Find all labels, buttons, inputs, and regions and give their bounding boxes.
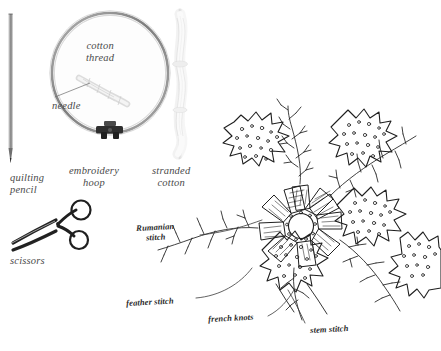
quilting-pencil-illustration: [9, 14, 13, 163]
embroidery-hoop-illustration: [50, 11, 170, 139]
feather-stitch-stems: [158, 99, 416, 320]
leaf-upper-right: [329, 109, 397, 167]
label-stranded-cotton: stranded cotton: [152, 165, 190, 188]
label-quilting-pencil: quilting pencil: [10, 172, 44, 195]
leaf-right: [335, 187, 406, 246]
label-stem-stitch: stem stitch: [310, 324, 349, 335]
label-embroidery-hoop: embroidery hoop: [69, 165, 119, 188]
embroidery-diagram-page: quilting pencil embroidery hoop stranded…: [0, 0, 441, 351]
feather-leader-line: [196, 268, 252, 298]
label-needle: needle: [52, 100, 81, 112]
central-flower: [259, 185, 342, 267]
stem-stitch-lines: [276, 284, 327, 314]
label-cotton-thread: cotton thread: [86, 40, 114, 63]
illustration-layer: [0, 0, 441, 351]
scissors-illustration: [11, 201, 91, 251]
label-rumanian-stitch: Rumanian stitch: [136, 222, 175, 243]
rumanian-stitch-texture: [264, 190, 340, 260]
label-scissors: scissors: [10, 255, 45, 267]
stranded-cotton-illustration: [173, 14, 188, 154]
leaf-far-right: [389, 232, 441, 298]
floral-design-illustration: [158, 99, 441, 320]
